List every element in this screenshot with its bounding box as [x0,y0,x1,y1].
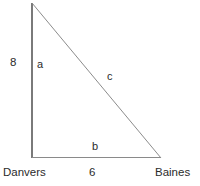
hypotenuse-line [32,3,161,158]
horizontal-leg-name-label: b [92,141,98,152]
vertical-leg-length-label: 8 [10,57,16,69]
city-label-baines: Baines [155,167,190,179]
triangle-figure: 8 a c b Danvers 6 Baines [0,0,200,186]
city-label-danvers: Danvers [3,167,46,179]
hypotenuse-name-label: c [107,71,113,82]
horizontal-leg-length-label: 6 [89,167,95,179]
triangle-graphic [0,0,200,186]
vertical-leg-name-label: a [37,59,43,70]
